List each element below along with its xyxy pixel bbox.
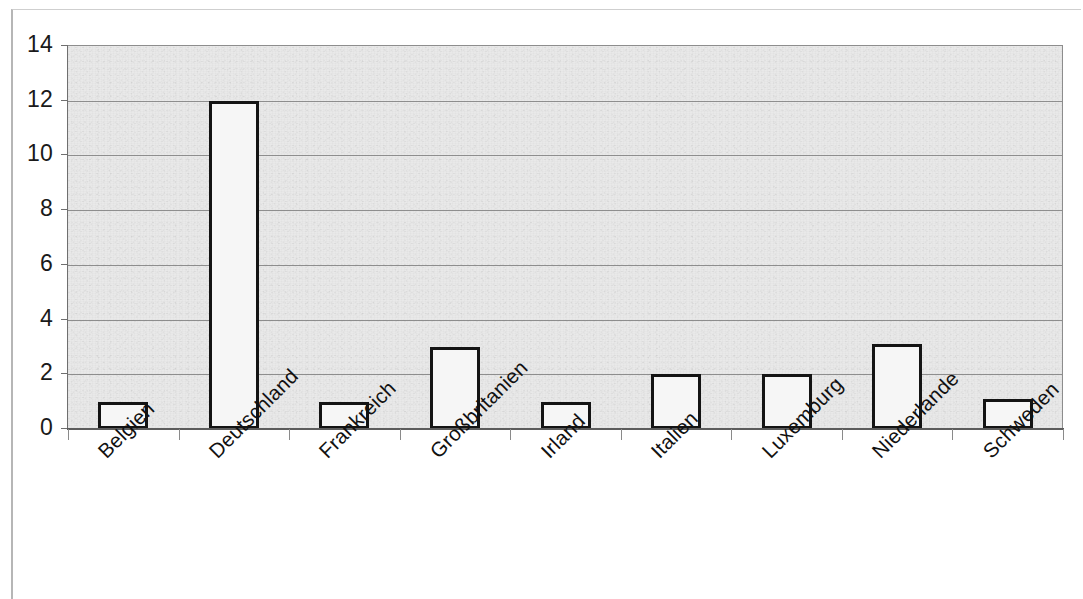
y-axis-tick-label: 0 [7,416,53,439]
x-tick-mark [400,429,401,440]
x-tick-mark [1063,429,1064,440]
y-tick-mark-10 [61,154,68,155]
y-axis-tick-label: 2 [7,361,53,384]
x-tick-mark [289,429,290,440]
x-tick-mark [179,429,180,440]
y-tick-mark-6 [61,264,68,265]
x-tick-mark [68,429,69,440]
y-axis-line [67,45,68,429]
y-axis-tick-label: 8 [7,197,53,220]
y-tick-mark-4 [61,319,68,320]
x-tick-mark [952,429,953,440]
x-tick-mark [510,429,511,440]
y-axis-tick-label: 10 [7,142,53,165]
x-tick-mark [842,429,843,440]
y-tick-mark-8 [61,209,68,210]
y-axis-tick-label: 12 [7,88,53,111]
y-tick-mark-12 [61,100,68,101]
y-axis-tick-label: 14 [7,33,53,56]
y-axis-tick-label: 4 [7,307,53,330]
x-tick-mark [731,429,732,440]
x-tick-mark [621,429,622,440]
bar [209,101,259,429]
y-axis-tick-label: 6 [7,252,53,275]
plot-area [68,45,1063,428]
y-tick-mark-14 [61,45,68,46]
y-tick-mark-2 [61,373,68,374]
